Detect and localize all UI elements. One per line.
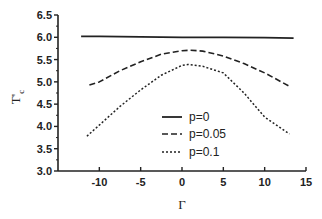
y-tick-label: 6.0 bbox=[37, 31, 52, 43]
y-ticks: 3.03.54.04.55.05.56.06.5 bbox=[37, 9, 58, 177]
y-tick-label: 5.0 bbox=[37, 76, 52, 88]
y-tick-label: 6.5 bbox=[37, 9, 52, 21]
y-tick-label: 4.0 bbox=[37, 120, 52, 132]
x-tick-label: -5 bbox=[136, 176, 146, 188]
series-p-0 bbox=[81, 36, 294, 38]
x-tick-label: -10 bbox=[91, 176, 107, 188]
y-axis-title: T'c bbox=[8, 90, 26, 104]
x-tick-label: 0 bbox=[179, 176, 185, 188]
y-tick-label: 4.5 bbox=[37, 98, 52, 110]
x-tick-label: 5 bbox=[220, 176, 226, 188]
legend-label: p=0 bbox=[189, 110, 210, 124]
x-axis-title: Γ bbox=[178, 197, 186, 212]
series-p-0-05 bbox=[89, 50, 289, 86]
legend: p=0p=0.05p=0.1 bbox=[162, 110, 226, 159]
legend-label: p=0.05 bbox=[189, 127, 226, 141]
line-chart: 3.03.54.04.55.05.56.06.5 -10-5051015 p=0… bbox=[0, 0, 322, 219]
data-series bbox=[81, 36, 294, 136]
legend-label: p=0.1 bbox=[189, 145, 220, 159]
series-p-0-1 bbox=[87, 65, 290, 137]
x-tick-label: 10 bbox=[259, 176, 271, 188]
x-ticks: -10-5051015 bbox=[91, 167, 312, 188]
y-tick-label: 5.5 bbox=[37, 54, 52, 66]
y-tick-label: 3.5 bbox=[37, 143, 52, 155]
x-tick-label: 15 bbox=[300, 176, 312, 188]
y-tick-label: 3.0 bbox=[37, 165, 52, 177]
